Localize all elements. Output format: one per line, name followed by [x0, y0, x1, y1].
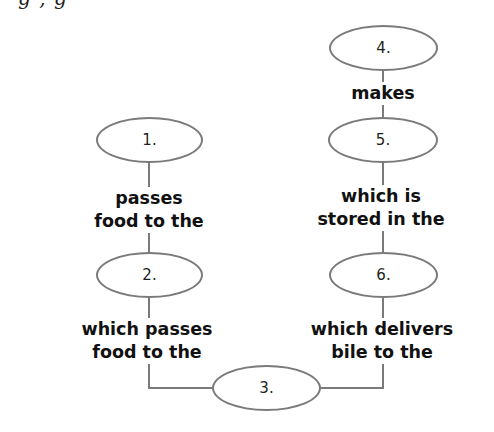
node-2-number: 2.: [142, 266, 156, 285]
node-5-answer-oval[interactable]: 5.: [328, 117, 438, 163]
node-6-answer-oval[interactable]: 6.: [329, 252, 438, 298]
link-label-line: which passes: [81, 318, 212, 341]
link-label-line: which delivers: [311, 318, 453, 341]
link-label-4-to-5: makes: [351, 82, 415, 105]
link-label-line: food to the: [81, 341, 212, 364]
concept-map-diagram: g , g 1. 2. 3. 4. 5. 6. passes food to t…: [0, 0, 494, 432]
link-label-line: food to the: [94, 210, 203, 233]
node-3-number: 3.: [259, 379, 273, 398]
link-label-line: passes: [94, 187, 203, 210]
link-label-2-to-3: which passes food to the: [81, 318, 212, 364]
node-5-number: 5.: [376, 131, 390, 150]
link-label-line: stored in the: [317, 208, 444, 231]
link-label-line: makes: [351, 82, 415, 105]
link-label-1-to-2: passes food to the: [94, 187, 203, 233]
link-label-6-to-3: which delivers bile to the: [311, 318, 453, 364]
node-4-number: 4.: [376, 39, 390, 58]
node-2-answer-oval[interactable]: 2.: [96, 252, 203, 298]
node-1-answer-oval[interactable]: 1.: [96, 117, 203, 163]
node-1-number: 1.: [142, 131, 156, 150]
node-3-answer-oval[interactable]: 3.: [212, 365, 321, 411]
node-4-answer-oval[interactable]: 4.: [329, 25, 438, 71]
node-6-number: 6.: [376, 266, 390, 285]
link-label-5-to-6: which is stored in the: [317, 185, 444, 231]
link-label-line: which is: [317, 185, 444, 208]
link-label-line: bile to the: [311, 341, 453, 364]
